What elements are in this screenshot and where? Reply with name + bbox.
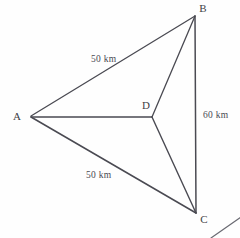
vertex-label-b: B (199, 2, 206, 14)
edge-b-c (195, 16, 196, 213)
edge-d-c (152, 117, 196, 213)
measure-label-ac: 50 km (86, 170, 112, 180)
measure-label-bc: 60 km (203, 110, 229, 120)
corner-line-fragment (211, 217, 240, 238)
edge-d-b (152, 16, 195, 117)
vertex-label-c: C (200, 213, 207, 225)
edge-a-b (31, 16, 195, 116)
vertex-label-d: D (142, 99, 150, 111)
measure-label-ab: 50 km (91, 54, 117, 64)
vertex-label-a: A (13, 110, 21, 122)
edge-a-c (31, 117, 196, 213)
geometry-diagram: A B C D 50 km 50 km 60 km (0, 0, 240, 238)
geometry-canvas: A B C D 50 km 50 km 60 km (0, 0, 240, 238)
